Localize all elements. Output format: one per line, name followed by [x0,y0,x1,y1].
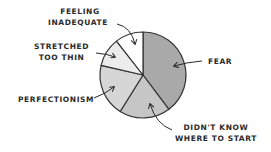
label-fear: FEAR [208,56,232,67]
label-perfectionism: PERFECTIONISM [18,94,94,105]
label-stretched-too-thin: STRETCHED TOO THIN [34,41,89,63]
label-feeling-inadequate: FEELING INADEQUATE [48,6,108,28]
label-didnt-know-where-to-start: DIDN'T KNOW WHERE TO START [175,122,257,144]
